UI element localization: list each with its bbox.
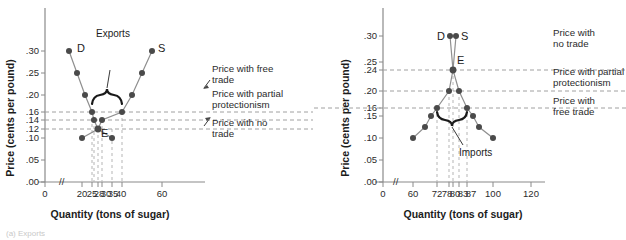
annotation-no-trade: Price with no trade — [553, 27, 595, 49]
annotation-line: protectionism — [212, 99, 270, 110]
y-tick-label: .30 — [26, 45, 39, 56]
y-tick-label: .20 — [364, 85, 377, 96]
x-tick-label: 87 — [466, 188, 477, 199]
x-axis-title: Quantity (tons of sugar) — [51, 208, 170, 220]
y-tick-label: .05 — [26, 154, 39, 165]
y-tick-labels: .00 .05 .10 .12 .14 .16 .20 .25 .30 — [26, 45, 39, 187]
y-tick-label: .16 — [26, 106, 39, 117]
demand-curve — [69, 51, 112, 138]
exports-chart-svg: Price (cents per pound) // .00 .05 — [0, 0, 313, 240]
imports-leader-line — [452, 127, 463, 145]
y-tick-label: .30 — [364, 30, 377, 41]
x-tick-label: 0 — [42, 188, 47, 199]
annotation-line: trade — [212, 128, 234, 139]
vertical-guide-lines — [92, 112, 122, 182]
x-tick-label: 60 — [408, 188, 419, 199]
exports-brace — [92, 89, 122, 104]
annotation-line: free trade — [553, 106, 594, 117]
y-tick-marks — [379, 36, 383, 182]
annotation-line: Price with — [553, 27, 595, 38]
x-tick-label: 40 — [116, 188, 127, 199]
annotation-partial-protectionism: Price with partial protectionism — [212, 88, 283, 110]
x-tick-label: 72 — [432, 188, 443, 199]
annotation-line: Price with no — [212, 117, 267, 128]
equilibrium-label: E — [457, 54, 464, 66]
x-axis-break-mark: // — [59, 176, 65, 187]
y-tick-label: .25 — [26, 67, 39, 78]
price-guide-lines — [45, 112, 313, 129]
x-tick-marks — [383, 182, 531, 187]
x-axis-break-mark: // — [393, 176, 399, 187]
exports-leader-line — [107, 70, 110, 88]
annotation-no-trade: Price with no trade — [204, 117, 267, 139]
annotation-line: Price with free — [212, 63, 273, 74]
annotation-line: protectionism — [553, 77, 611, 88]
x-tick-label: 120 — [523, 188, 539, 199]
y-axis-title: Price (cents per pound) — [339, 59, 351, 176]
x-tick-label: 0 — [380, 188, 385, 199]
exports-brace-label: Exports — [96, 28, 130, 39]
annotation-line: no trade — [553, 38, 589, 49]
equilibrium-label: E — [101, 127, 108, 139]
annotation-line: Price with — [553, 95, 595, 106]
y-tick-label: .25 — [364, 56, 377, 67]
imports-brace — [437, 112, 467, 126]
annotation-partial-protectionism: Price with partial protectionism — [553, 66, 624, 88]
y-tick-label: .00 — [26, 176, 39, 187]
demand-curve-label: D — [77, 42, 85, 54]
equilibrium-point — [450, 67, 457, 74]
x-axis-title: Quantity (tons of sugar) — [404, 208, 523, 220]
x-tick-label: 60 — [157, 188, 168, 199]
x-tick-labels: 0 60 72 78 80 83 87 100 120 — [380, 188, 539, 199]
x-tick-label: 100 — [485, 188, 501, 199]
demand-curve-label: D — [437, 30, 445, 42]
chart-panel-exports: Price (cents per pound) // .00 .05 — [0, 0, 313, 240]
annotation-free-trade: Price with free trade — [203, 63, 273, 89]
demand-curve — [450, 36, 493, 138]
chart-panel-imports: Price (cents per pound) // .00 .05 .10 — [313, 0, 626, 240]
figure-caption-cut: (a) Exports — [6, 229, 45, 240]
imports-brace-label: Imports — [459, 147, 492, 158]
supply-data-points — [79, 48, 155, 141]
x-tick-labels: 0 20 25 28 30 35 40 60 — [42, 188, 167, 199]
annotation-line: Price with partial — [553, 66, 624, 77]
y-tick-label: .05 — [364, 154, 377, 165]
y-axis-title: Price (cents per pound) — [4, 59, 16, 176]
y-tick-label: .00 — [364, 176, 377, 187]
y-tick-label: .20 — [26, 89, 39, 100]
imports-chart-svg: Price (cents per pound) // .00 .05 .10 — [313, 0, 626, 240]
two-panel-trade-figure: Price (cents per pound) // .00 .05 — [0, 0, 626, 240]
y-tick-label: .10 — [364, 132, 377, 143]
annotation-line: Price with partial — [212, 88, 283, 99]
supply-curve-label: S — [158, 42, 165, 54]
annotation-line: trade — [212, 74, 234, 85]
supply-curve-label: S — [461, 30, 468, 42]
annotation-free-trade: Price with free trade — [553, 95, 595, 117]
x-tick-label: 20 — [77, 188, 88, 199]
